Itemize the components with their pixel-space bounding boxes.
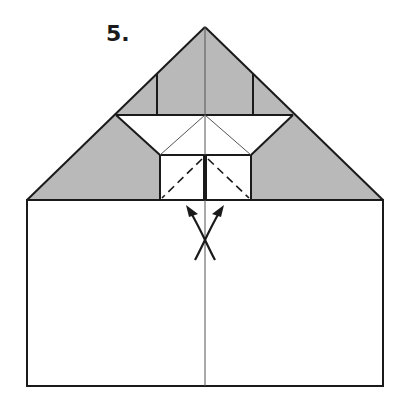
origami-diagram [0,0,405,413]
